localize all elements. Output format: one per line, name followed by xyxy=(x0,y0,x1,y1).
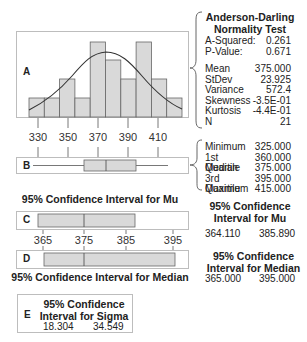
brace-stats-icon xyxy=(190,12,202,128)
ad-title-line2: Normality Test xyxy=(202,23,298,35)
ci-tick-label: 395 xyxy=(164,234,182,246)
stat-label: Maximum xyxy=(205,184,248,195)
ci-sigma-title: 95% Confidence Interval for Sigma xyxy=(35,298,133,322)
stat-row-a-squared: A-Squared: 0.261 xyxy=(205,36,291,47)
stat-value: 415.000 xyxy=(255,184,291,195)
hist-tick-label: 350 xyxy=(59,131,77,143)
ci-median-bar xyxy=(44,253,175,266)
stat-label: P-Value: xyxy=(205,47,243,58)
anderson-darling-title: Anderson-Darling Normality Test xyxy=(202,11,298,35)
ci-tick-label: 375 xyxy=(75,234,93,246)
stat-label: Minimum xyxy=(205,142,246,153)
stat-label: Median xyxy=(205,163,238,174)
stat-row-minimum: Minimum 325.000 xyxy=(205,142,291,153)
stat-row-maximum: Maximum 415.000 xyxy=(205,184,291,195)
stat-value: 325.000 xyxy=(255,142,291,153)
stat-value: 0.261 xyxy=(266,36,291,47)
stat-value: 375.000 xyxy=(255,64,291,75)
ci-tick-label: 365 xyxy=(34,234,52,246)
stat-row-n: N 21 xyxy=(205,117,291,128)
ci-sigma-title-line1: 95% Confidence xyxy=(35,298,133,310)
ci-mu-title-line2: Interval for Mu xyxy=(202,212,298,224)
panel-label-a: A xyxy=(23,66,30,77)
panel-label-c: C xyxy=(23,214,30,225)
stat-label: Kurtosis xyxy=(205,106,241,117)
stat-row-p-value: P-Value: 0.671 xyxy=(205,47,291,58)
stat-row-variance: Variance 572.4 xyxy=(205,85,291,96)
ci-median-upper: 395.000 xyxy=(259,273,295,284)
ci-median-title-line1: 95% Confidence xyxy=(202,250,305,262)
stat-row-median: Median 375.000 xyxy=(205,163,291,174)
stat-value: 21 xyxy=(280,117,291,128)
stat-value: -4.4E-01 xyxy=(253,106,291,117)
ci-mu-title-line1: 95% Confidence xyxy=(202,200,298,212)
ci-mu-lower: 364.110 xyxy=(205,228,240,239)
stat-label: N xyxy=(205,117,212,128)
stat-label: Mean xyxy=(205,64,230,75)
stat-row-kurtosis: Kurtosis -4.4E-01 xyxy=(205,106,291,117)
panel-label-b: B xyxy=(23,160,30,171)
panel-label-e: E xyxy=(24,309,31,320)
ci-median-chart-title: 95% Confidence Interval for Median xyxy=(0,271,200,283)
stat-value: 572.4 xyxy=(266,85,291,96)
stat-label: Variance xyxy=(205,85,244,96)
ci-median-lower: 365.000 xyxy=(205,273,241,284)
stat-label: A-Squared: xyxy=(205,36,256,47)
ci-mu-bar xyxy=(38,214,135,227)
ci-mu-chart-title: 95% Confidence Interval for Mu xyxy=(0,193,200,205)
ci-tick-label: 385 xyxy=(117,234,135,246)
ci-sigma-lower: 18.304 xyxy=(43,321,74,332)
iqr-box xyxy=(84,160,136,171)
ci-sigma-upper: 34.549 xyxy=(93,321,124,332)
ci-ticks xyxy=(43,230,173,251)
hist-tick-label: 390 xyxy=(119,131,137,143)
hist-tick-label: 330 xyxy=(29,131,47,143)
hist-tick-label: 370 xyxy=(89,131,107,143)
brace-quartiles-icon xyxy=(190,140,202,190)
ci-mu-stats-title: 95% Confidence Interval for Mu xyxy=(202,200,298,224)
ci-median-stats-title: 95% Confidence Interval for Median xyxy=(202,250,305,274)
ci-mu-upper: 385.890 xyxy=(259,228,295,239)
stat-value: 0.671 xyxy=(266,47,291,58)
stat-value: 375.000 xyxy=(255,163,291,174)
ad-title-line1: Anderson-Darling xyxy=(202,11,298,23)
hist-tick-label: 410 xyxy=(149,131,167,143)
stat-row-mean: Mean 375.000 xyxy=(205,64,291,75)
panel-label-d: D xyxy=(23,253,30,264)
